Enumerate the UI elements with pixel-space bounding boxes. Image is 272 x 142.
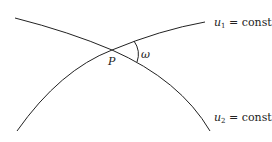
curve-u1 [17, 22, 205, 131]
u2-eq: = const [226, 111, 272, 124]
curve-u2-label: u2 = const [214, 112, 272, 125]
point-label: P [108, 56, 115, 67]
angle-arc [134, 41, 138, 62]
angle-label: ω [141, 49, 150, 60]
coordinate-curves-diagram: P ω u1 = const u2 = const [0, 0, 272, 142]
curve-u2 [15, 18, 210, 131]
u1-eq: = const [226, 16, 272, 29]
curve-u1-label: u1 = const [214, 17, 272, 30]
